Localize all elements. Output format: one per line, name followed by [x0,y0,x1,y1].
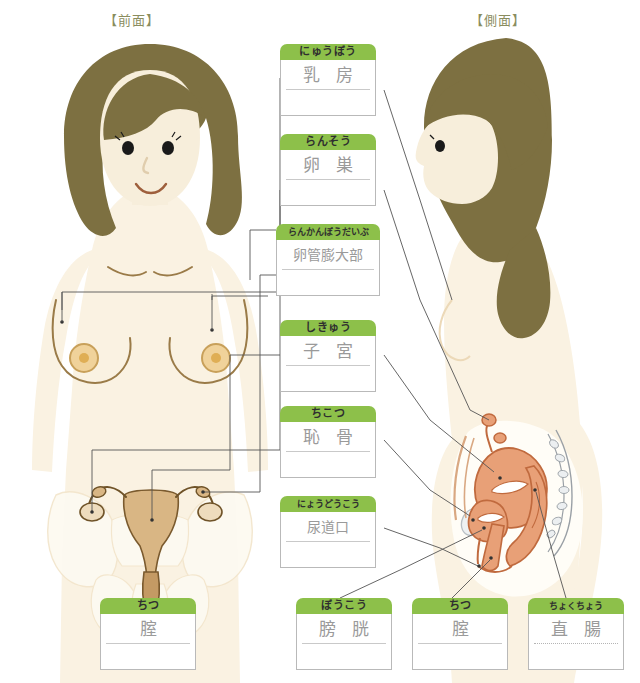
label-rule-chitsu-front [106,643,190,644]
side-eye [435,140,445,152]
label-term-chikotsu: 恥 骨 [281,425,375,449]
label-rule-shikyuu [286,365,370,366]
label-body-chitsu-side[interactable]: 腟 [412,614,508,670]
front-left-eye [122,141,134,155]
label-rule-nyuubou [286,89,370,90]
label-rule-chitsu-side [418,643,502,644]
label-kana-chikotsu: ちこつ [280,406,376,422]
label-rule-chikotsu [286,451,370,452]
label-box-chitsu-front[interactable]: ちつ 腟 [100,598,196,670]
label-box-chitsu-side[interactable]: ちつ 腟 [412,598,508,670]
label-term-shikyuu: 子 宮 [281,339,375,363]
label-term-boukou: 膀 胱 [297,617,391,641]
label-term-chitsu-side: 腟 [413,617,507,641]
label-rule-rankanboudaibu [282,269,374,270]
label-body-rankanboudaibu[interactable]: 卵管膨大部 [276,240,380,296]
side-body-figure [416,38,603,683]
label-box-rankanboudaibu[interactable]: らんかんぼうだいぶ 卵管膨大部 [276,224,380,296]
label-box-chokuchou[interactable]: ちょくちょう 直 腸 [528,598,624,670]
label-rule-chokuchou [534,643,618,644]
label-body-nyoudoukou[interactable]: 尿道口 [280,512,376,568]
label-kana-chitsu-front: ちつ [100,598,196,614]
label-kana-rankanboudaibu: らんかんぼうだいぶ [276,224,380,240]
label-term-chokuchou: 直 腸 [529,617,623,641]
label-kana-ransou: らんそう [280,134,376,150]
front-left-ovary [80,503,104,521]
label-kana-chitsu-side: ちつ [412,598,508,614]
label-body-nyuubou[interactable]: 乳 房 [280,60,376,116]
label-kana-chokuchou: ちょくちょう [528,598,624,614]
label-term-rankanboudaibu: 卵管膨大部 [277,243,379,267]
front-left-nipple [79,353,89,363]
label-box-shikyuu[interactable]: しきゅう 子 宮 [280,320,376,392]
side-ampulla [494,433,506,443]
label-rule-nyoudoukou [286,541,370,542]
label-body-chikotsu[interactable]: 恥 骨 [280,422,376,478]
front-right-eye [162,141,174,155]
label-kana-nyuubou: にゅうぼう [280,44,376,60]
front-right-nipple [211,353,221,363]
label-kana-nyoudoukou: にょうどうこう [280,496,376,512]
label-rule-boukou [302,643,386,644]
label-box-boukou[interactable]: ぼうこう 膀 胱 [296,598,392,670]
front-body-figure [32,44,268,683]
label-kana-shikyuu: しきゅう [280,320,376,336]
label-term-nyoudoukou: 尿道口 [281,515,375,539]
label-box-nyoudoukou[interactable]: にょうどうこう 尿道口 [280,496,376,568]
label-body-boukou[interactable]: 膀 胱 [296,614,392,670]
side-ovary [482,414,496,426]
label-body-chokuchou[interactable]: 直 腸 [528,614,624,670]
label-body-shikyuu[interactable]: 子 宮 [280,336,376,392]
label-term-nyuubou: 乳 房 [281,63,375,87]
front-right-ovary [198,503,222,521]
label-body-chitsu-front[interactable]: 腟 [100,614,196,670]
label-rule-ransou [286,179,370,180]
label-body-ransou[interactable]: 卵 巣 [280,150,376,206]
label-term-chitsu-front: 腟 [101,617,195,641]
label-kana-boukou: ぼうこう [296,598,392,614]
label-box-ransou[interactable]: らんそう 卵 巣 [280,134,376,206]
anatomy-diagram: 【前面】 【側面】 [0,0,640,683]
label-box-nyuubou[interactable]: にゅうぼう 乳 房 [280,44,376,116]
label-term-ransou: 卵 巣 [281,153,375,177]
label-box-chikotsu[interactable]: ちこつ 恥 骨 [280,406,376,478]
